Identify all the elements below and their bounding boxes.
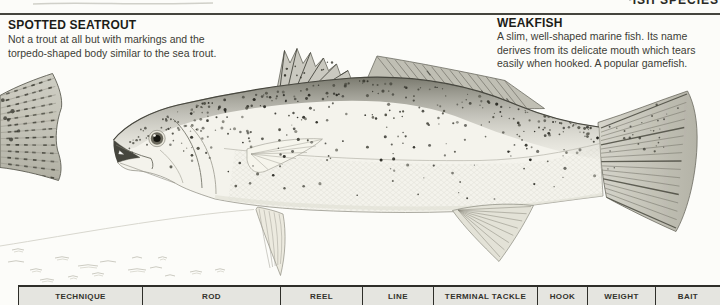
fish-eye [149,130,165,146]
seatrout-tail-partial [0,74,62,181]
weakfish-body [113,49,697,276]
reference-table-header: TECHNIQUERODREELLINETERMINAL TACKLEHOOKW… [18,285,720,305]
top-smudge [33,3,213,4]
pelvic-fin [256,207,285,276]
table-header-cell: WEIGHT [588,287,656,305]
ground-line [0,210,254,247]
table-header-cell: REEL [281,287,363,305]
table-header-cell: TECHNIQUE [19,287,143,305]
pebble-sketches [8,249,225,282]
anal-fin [453,204,534,261]
table-header-cell: HOOK [538,287,588,305]
table-header-cell: BAIT [656,287,720,305]
table-header-cell: LINE [363,287,434,305]
table-header-cell: TERMINAL TACKLE [434,287,538,305]
table-header-cell: ROD [143,287,281,305]
